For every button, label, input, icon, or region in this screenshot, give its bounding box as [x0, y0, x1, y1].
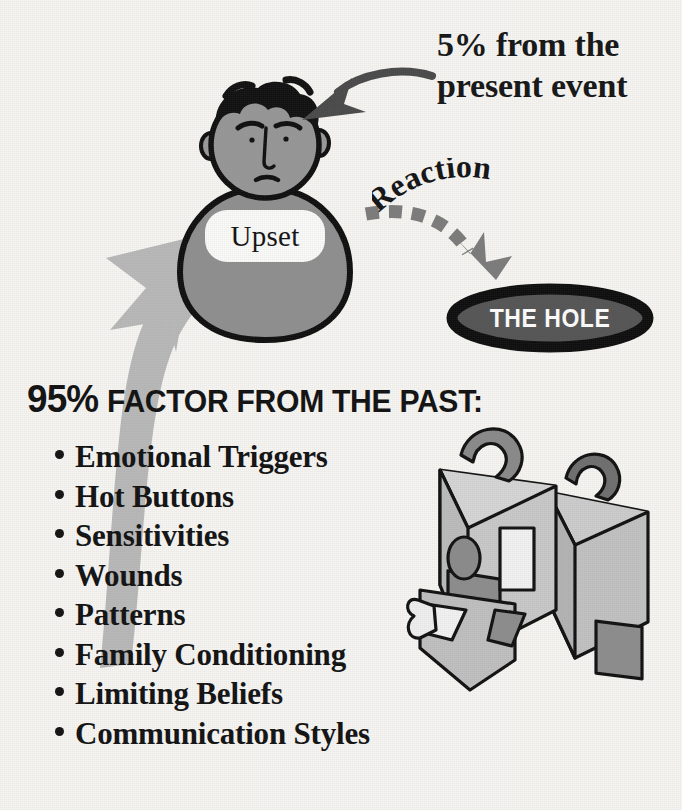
list-item: Hot Buttons [55, 477, 370, 517]
list-item-label: Hot Buttons [75, 479, 234, 514]
diagram-canvas: 5% from the present event Reaction Upset… [0, 0, 682, 810]
present-event-line2: present event [437, 65, 677, 106]
past-factors-list: Emotional TriggersHot ButtonsSensitiviti… [55, 437, 370, 753]
list-item: Communication Styles [55, 714, 370, 754]
upset-state-label: Upset [209, 212, 321, 260]
past-heading-text: FACTOR FROM THE PAST: [107, 383, 483, 420]
list-item-label: Communication Styles [75, 716, 370, 751]
present-event-caption: 5% from the present event [437, 24, 677, 107]
bullet-icon [55, 450, 64, 459]
bullet-icon [55, 687, 64, 696]
reaction-label-text: Reaction [372, 158, 494, 218]
bullet-icon [55, 608, 64, 617]
svg-text:Reaction: Reaction [372, 158, 494, 218]
past-factor-heading: 95% FACTOR FROM THE PAST: [26, 378, 507, 421]
list-item-label: Sensitivities [75, 518, 229, 553]
list-item: Limiting Beliefs [55, 674, 370, 714]
list-item: Emotional Triggers [55, 437, 370, 477]
list-item: Family Conditioning [55, 635, 370, 675]
reaction-label: Reaction [372, 158, 602, 238]
list-item-label: Family Conditioning [75, 637, 346, 672]
past-percent: 95% [27, 378, 98, 421]
list-item-label: Limiting Beliefs [75, 676, 283, 711]
present-event-arrow [302, 72, 432, 120]
bullet-icon [55, 529, 64, 538]
list-item-label: Patterns [75, 597, 185, 632]
bullet-icon [55, 569, 64, 578]
the-hole-label: THE HOLE [463, 298, 638, 338]
present-event-line1: 5% from the [437, 24, 677, 65]
list-item: Patterns [55, 595, 370, 635]
list-item: Sensitivities [55, 516, 370, 556]
list-item-label: Emotional Triggers [75, 439, 328, 474]
bullet-icon [55, 490, 64, 499]
list-item-label: Wounds [75, 558, 182, 593]
bullet-icon [55, 727, 64, 736]
list-item: Wounds [55, 556, 370, 596]
bullet-icon [55, 648, 64, 657]
